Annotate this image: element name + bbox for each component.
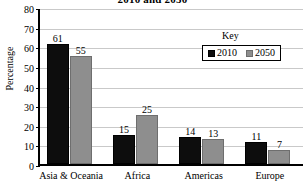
- gridline: [40, 9, 303, 10]
- y-axis-tick-mark: [36, 146, 40, 147]
- y-axis-tick-label: 80: [24, 4, 34, 15]
- x-axis-label-americas: Americas: [184, 170, 222, 181]
- y-axis-tick-mark: [36, 88, 40, 89]
- bar-2050-europe: 7: [268, 150, 290, 164]
- y-axis-tick-mark: [36, 166, 40, 167]
- bar-2050-americas: 13: [202, 139, 224, 165]
- bar-value-label: 7: [277, 140, 282, 150]
- y-axis-tick-mark: [36, 9, 40, 10]
- y-axis-tick-label: 70: [24, 23, 34, 34]
- bar-2010-asia-oceania: 61: [47, 44, 69, 164]
- legend-item-2010: 2010: [208, 48, 237, 58]
- legend-item-2050: 2050: [246, 48, 275, 58]
- plot-area: 01020304050607080 615515251413117: [38, 9, 303, 166]
- bar-value-label: 13: [208, 129, 218, 139]
- bar-2010-americas: 14: [179, 137, 201, 164]
- bar-chart: 2010 and 2050 Percentage 010203040506070…: [0, 0, 305, 190]
- y-axis-tick-mark: [36, 127, 40, 128]
- y-axis-tick-label: 0: [29, 161, 34, 172]
- y-axis-title: Percentage: [4, 29, 15, 109]
- y-axis-tick-mark: [36, 68, 40, 69]
- legend: 2010 2050: [202, 45, 281, 61]
- x-axis-label-asia-oceania: Asia & Oceania: [39, 170, 103, 181]
- bar-value-label: 14: [185, 127, 195, 137]
- bar-2010-africa: 15: [113, 135, 135, 164]
- bar-2050-asia-oceania: 55: [70, 56, 92, 164]
- y-axis-tick-mark: [36, 29, 40, 30]
- x-axis-label-africa: Africa: [125, 170, 151, 181]
- bar-value-label: 11: [252, 132, 262, 142]
- legend-title: Key: [222, 30, 239, 41]
- bar-value-label: 25: [142, 105, 152, 115]
- x-axis-label-europe: Europe: [255, 170, 284, 181]
- legend-label-2050: 2050: [255, 48, 275, 58]
- bar-2050-africa: 25: [136, 115, 158, 164]
- legend-swatch-icon-2010: [208, 50, 215, 57]
- y-axis-tick-mark: [36, 48, 40, 49]
- bar-2010-europe: 11: [245, 142, 267, 164]
- bar-value-label: 61: [53, 34, 63, 44]
- y-axis-tick-label: 10: [24, 141, 34, 152]
- legend-label-2010: 2010: [217, 48, 237, 58]
- gridline: [40, 29, 303, 30]
- legend-swatch-icon-2050: [246, 50, 253, 57]
- y-axis-tick-mark: [36, 107, 40, 108]
- y-axis-tick-label: 20: [24, 121, 34, 132]
- y-axis-tick-label: 40: [24, 82, 34, 93]
- chart-title: 2010 and 2050: [0, 0, 305, 5]
- bar-value-label: 15: [119, 125, 129, 135]
- y-axis-tick-label: 30: [24, 102, 34, 113]
- y-axis-tick-label: 50: [24, 62, 34, 73]
- y-axis-tick-label: 60: [24, 43, 34, 54]
- bar-value-label: 55: [76, 46, 86, 56]
